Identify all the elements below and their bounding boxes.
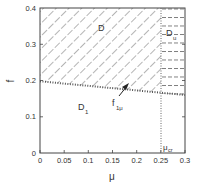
- x-tick-label: 0.2: [131, 156, 141, 165]
- region-du-hatch: [161, 8, 185, 96]
- y-tick-label: 0.2: [26, 76, 36, 85]
- svg-text:u: u: [173, 35, 176, 41]
- y-axis-label: f: [5, 79, 16, 82]
- y-tick-label: 0: [32, 149, 36, 158]
- y-tick-label: 0.1: [26, 112, 36, 121]
- x-tick-label: 0.15: [105, 156, 120, 165]
- x-tick-label: 0.25: [153, 156, 168, 165]
- svg-text:1μ: 1μ: [116, 105, 123, 111]
- svg-text:1: 1: [85, 109, 89, 115]
- region-d-label: D: [98, 23, 105, 33]
- phase-diagram-chart: 0 0.05 0.1 0.15 0.2 0.25 0.3 0 0.1 0.2 0…: [0, 0, 203, 189]
- x-tick-label: 0: [38, 156, 42, 165]
- svg-text:f: f: [112, 98, 115, 108]
- f1mu-label: f 1μ: [112, 98, 123, 111]
- svg-text:D: D: [166, 28, 173, 38]
- x-axis-label: μ: [109, 171, 115, 182]
- x-tick-label: 0.05: [57, 156, 72, 165]
- svg-text:cr: cr: [168, 147, 173, 153]
- mu-cr-label: μ cr: [163, 143, 173, 153]
- x-tick-label: 0.1: [83, 156, 93, 165]
- y-tick-label: 0.4: [26, 4, 36, 13]
- y-tick-label: 0.3: [26, 40, 36, 49]
- x-tick-label: 0.3: [180, 156, 190, 165]
- region-d-hatch: [40, 8, 161, 93]
- region-d1-label: D 1: [78, 102, 89, 115]
- svg-text:D: D: [78, 102, 85, 112]
